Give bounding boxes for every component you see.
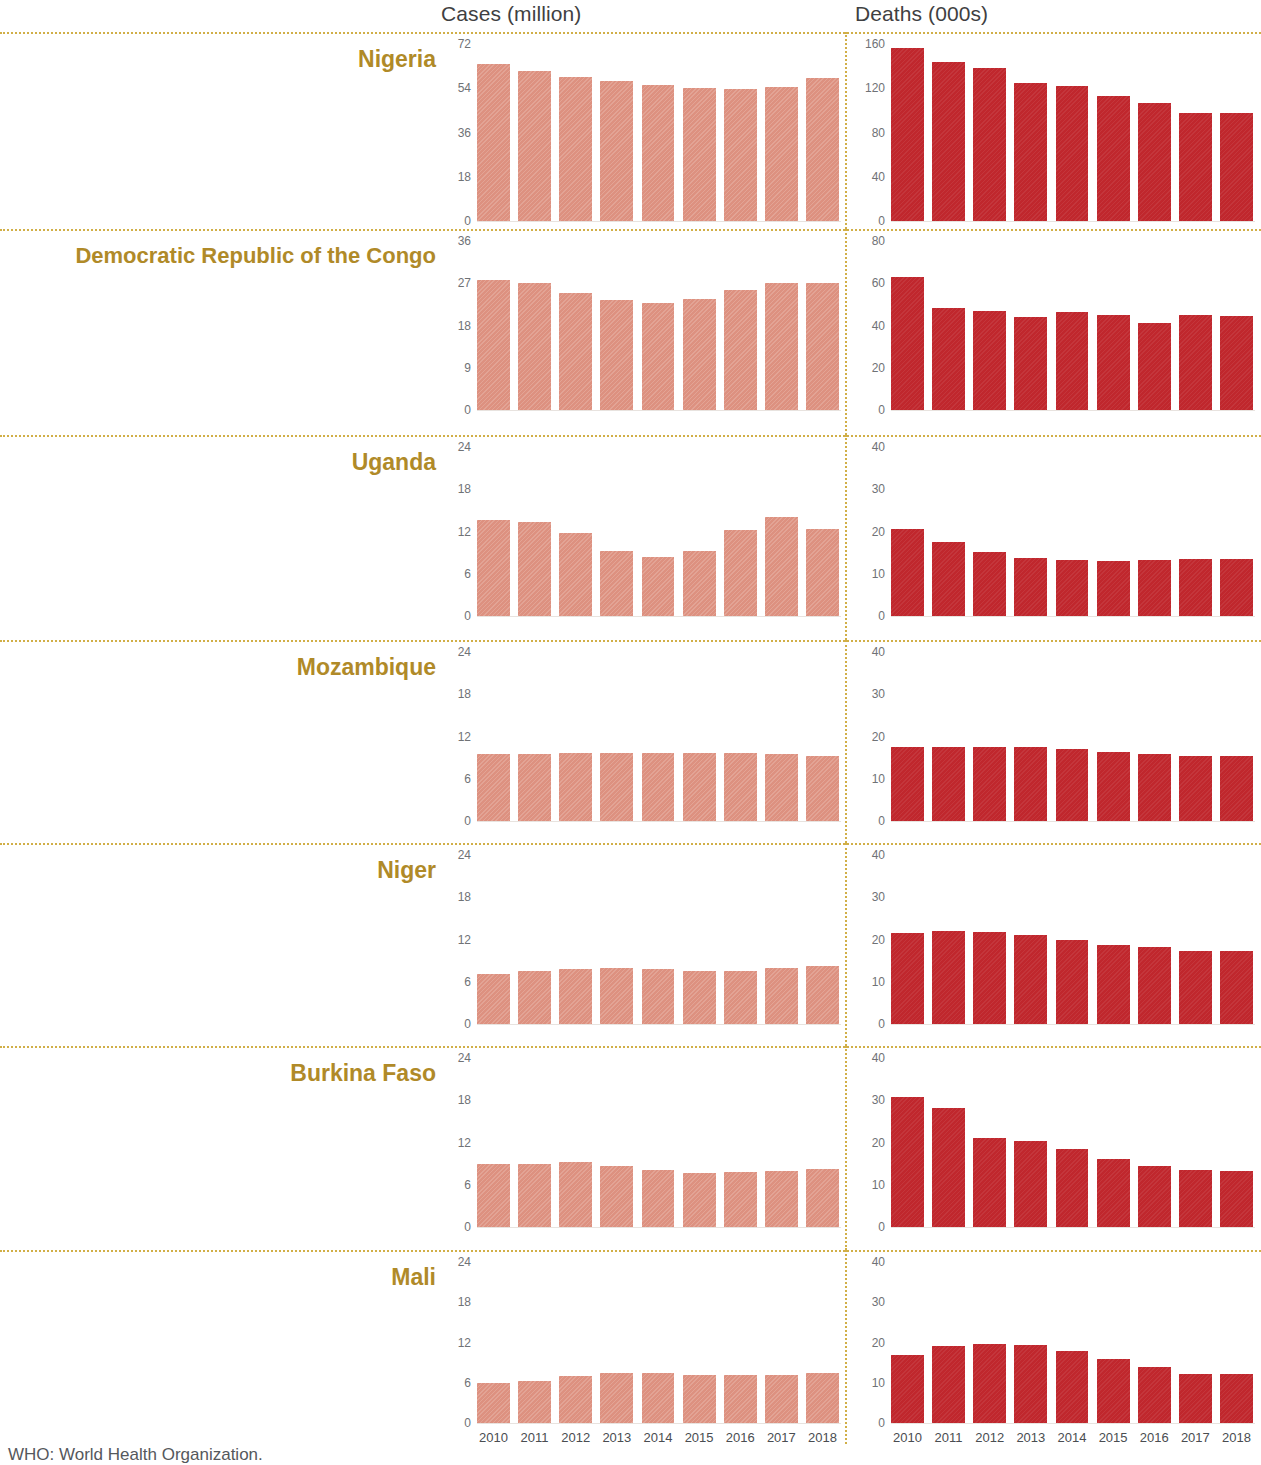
bar (932, 931, 965, 1024)
y-axis-tick: 12 (458, 730, 471, 744)
bar (765, 87, 798, 221)
x-axis-tick: 2010 (891, 1430, 924, 1445)
column-header-deaths: Deaths (000s) (855, 2, 988, 26)
panel-deaths: 403020100 (855, 439, 1255, 644)
plot-area: 24181260 (477, 652, 841, 822)
y-axis-tick: 36 (458, 126, 471, 140)
y-axis-tick: 0 (464, 609, 471, 623)
y-axis-tick: 30 (872, 1093, 885, 1107)
y-axis-tick: 6 (464, 1376, 471, 1390)
y-axis-tick: 0 (878, 1220, 885, 1234)
y-axis-tick: 0 (878, 403, 885, 417)
bar (600, 551, 633, 616)
y-axis-tick: 40 (872, 848, 885, 862)
panel-divider (845, 32, 847, 229)
panel-cases: 24181260 (441, 439, 841, 644)
bar (642, 1373, 675, 1423)
bar (806, 283, 839, 410)
y-axis-tick: 0 (878, 214, 885, 228)
y-axis-tick: 6 (464, 975, 471, 989)
panel-deaths: 403020100 (855, 644, 1255, 847)
bar (683, 753, 716, 821)
bar (1179, 756, 1212, 821)
bar (806, 78, 839, 221)
y-axis-tick: 30 (872, 687, 885, 701)
x-axis-tick: 2016 (724, 1430, 757, 1445)
bar (891, 933, 924, 1024)
bar (600, 753, 633, 821)
bar (1220, 1374, 1253, 1423)
bar (1014, 1141, 1047, 1227)
bar-group (891, 447, 1253, 616)
country-label: Mali (391, 1264, 436, 1291)
row-separator (0, 1046, 1261, 1048)
bar (724, 1172, 757, 1227)
y-axis-tick: 0 (464, 814, 471, 828)
bar (1179, 113, 1212, 221)
row-separator (0, 843, 1261, 845)
y-axis-tick: 12 (458, 933, 471, 947)
bar (765, 968, 798, 1024)
bar (724, 753, 757, 821)
bar (477, 64, 510, 221)
bar (477, 1164, 510, 1227)
bar (1220, 1171, 1253, 1227)
plot-area: 806040200 (891, 241, 1255, 411)
y-axis-tick: 40 (872, 440, 885, 454)
y-axis-tick: 18 (458, 890, 471, 904)
bar (1097, 945, 1130, 1024)
plot-area: 24181260 (477, 855, 841, 1025)
y-axis-tick: 54 (458, 81, 471, 95)
y-axis-tick: 24 (458, 440, 471, 454)
y-axis-tick: 12 (458, 1136, 471, 1150)
y-axis-tick: 30 (872, 890, 885, 904)
bar (1138, 323, 1171, 410)
y-axis-tick: 10 (872, 772, 885, 786)
bar (683, 551, 716, 616)
y-axis-tick: 10 (872, 975, 885, 989)
bar (1014, 83, 1047, 221)
country-row: Mali241812602010201120122013201420152016… (0, 1254, 1261, 1448)
y-axis-tick: 40 (872, 645, 885, 659)
bar (1056, 749, 1089, 821)
plot-area: 403020100 (891, 1058, 1255, 1228)
bar (806, 1169, 839, 1227)
y-axis-tick: 0 (464, 214, 471, 228)
row-separator (0, 435, 1261, 437)
bar (683, 1375, 716, 1423)
country-label: Uganda (352, 449, 436, 476)
x-axis-tick: 2013 (600, 1430, 633, 1445)
panel-divider (845, 640, 847, 843)
bar (1056, 1149, 1089, 1227)
bar (477, 1383, 510, 1423)
bar (765, 283, 798, 410)
row-separator (0, 1250, 1261, 1252)
bar (559, 753, 592, 821)
bar (518, 522, 551, 616)
bar (1179, 1170, 1212, 1227)
y-axis-tick: 18 (458, 319, 471, 333)
small-multiples-chart: Cases (million) Deaths (000s) Nigeria725… (0, 0, 1261, 1465)
panel-divider (845, 843, 847, 1046)
bar (642, 969, 675, 1024)
plot-area: 403020100 (891, 855, 1255, 1025)
bar (477, 280, 510, 410)
bar (765, 754, 798, 821)
y-axis-tick: 0 (878, 1017, 885, 1031)
y-axis-tick: 80 (872, 234, 885, 248)
bar (1056, 560, 1089, 616)
bar (765, 1171, 798, 1227)
y-axis-tick: 10 (872, 567, 885, 581)
bar (477, 520, 510, 616)
plot-area: 403020100 (891, 652, 1255, 822)
bar (683, 88, 716, 221)
panel-deaths: 4030201002010201120122013201420152016201… (855, 1254, 1255, 1448)
country-row: Niger24181260403020100 (0, 847, 1261, 1050)
y-axis-tick: 36 (458, 234, 471, 248)
y-axis-tick: 9 (464, 361, 471, 375)
bar (642, 557, 675, 616)
plot-area: 725436180 (477, 44, 841, 222)
y-axis-tick: 0 (464, 1017, 471, 1031)
bar (724, 290, 757, 410)
bar-group (891, 44, 1253, 221)
